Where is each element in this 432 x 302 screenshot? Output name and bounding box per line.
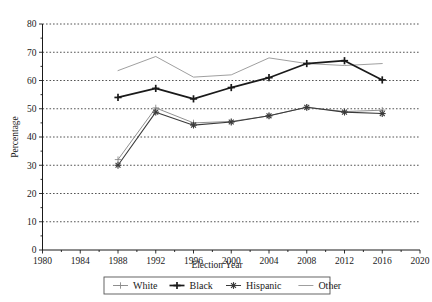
y-tick-label-70: 70 bbox=[27, 48, 37, 58]
x-tick-label-2016: 2016 bbox=[373, 256, 392, 266]
y-axis-title: Percentage bbox=[10, 116, 20, 158]
chart-container: 01020304050607080 1980198419881992199620… bbox=[0, 0, 432, 302]
series-hispanic bbox=[115, 104, 386, 169]
x-tick-label-1988: 1988 bbox=[109, 256, 128, 266]
legend-label-other: Other bbox=[318, 280, 341, 291]
y-tick-label-30: 30 bbox=[27, 161, 37, 171]
datapoint-hispanic-2012 bbox=[341, 109, 348, 116]
legend-label-white: White bbox=[133, 280, 158, 291]
x-axis-title: Election Year bbox=[191, 260, 243, 270]
legend-label-black: Black bbox=[190, 280, 213, 291]
series-line-other bbox=[118, 56, 382, 77]
y-tick-label-60: 60 bbox=[27, 76, 37, 86]
x-tick-label-2004: 2004 bbox=[260, 256, 279, 266]
data-series-group bbox=[114, 56, 385, 168]
x-tick-label-1984: 1984 bbox=[71, 256, 90, 266]
datapoint-black-1996 bbox=[190, 95, 197, 102]
datapoint-hispanic-2008 bbox=[303, 104, 310, 111]
x-tick-label-2012: 2012 bbox=[335, 256, 354, 266]
y-tick-label-80: 80 bbox=[27, 19, 37, 29]
series-line-white bbox=[118, 107, 382, 159]
series-line-hispanic bbox=[118, 107, 382, 165]
y-tick-label-40: 40 bbox=[27, 132, 37, 142]
datapoint-hispanic-1992 bbox=[152, 109, 159, 116]
line-chart-svg: 01020304050607080 1980198419881992199620… bbox=[0, 0, 432, 302]
datapoint-black-2000 bbox=[228, 84, 235, 91]
datapoint-hispanic-2004 bbox=[266, 112, 273, 119]
x-tick-label-2020: 2020 bbox=[411, 256, 430, 266]
x-tick-label-1980: 1980 bbox=[33, 256, 52, 266]
y-tick-label-50: 50 bbox=[27, 104, 37, 114]
datapoint-hispanic-2000 bbox=[228, 119, 235, 126]
x-tick-label-2008: 2008 bbox=[297, 256, 316, 266]
datapoint-black-2016 bbox=[379, 76, 386, 83]
datapoint-black-1992 bbox=[152, 85, 159, 92]
x-tick-label-1992: 1992 bbox=[146, 256, 165, 266]
datapoint-black-2012 bbox=[341, 57, 348, 64]
series-other bbox=[118, 56, 382, 77]
datapoint-hispanic-1996 bbox=[190, 122, 197, 129]
series-black bbox=[114, 57, 385, 102]
datapoint-black-1988 bbox=[114, 94, 121, 101]
legend-label-hispanic: Hispanic bbox=[246, 280, 282, 291]
legend-marker-hispanic bbox=[230, 282, 237, 289]
datapoint-hispanic-2016 bbox=[379, 110, 386, 117]
y-tick-label-20: 20 bbox=[27, 189, 37, 199]
datapoint-hispanic-1988 bbox=[115, 162, 122, 169]
y-tick-label-10: 10 bbox=[27, 217, 37, 227]
datapoint-black-2008 bbox=[303, 60, 310, 67]
y-tick-label-0: 0 bbox=[32, 245, 37, 255]
y-axis-ticks: 01020304050607080 bbox=[27, 19, 43, 255]
chart-legend[interactable]: WhiteBlackHispanicOther bbox=[104, 277, 342, 294]
